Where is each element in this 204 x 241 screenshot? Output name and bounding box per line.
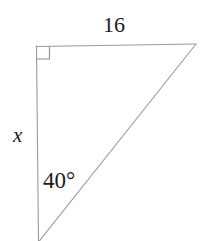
triangle-side-top xyxy=(36,44,196,47)
triangle-drawing xyxy=(0,0,204,241)
side-length-label-left: x xyxy=(13,125,22,146)
angle-measure-label: 40° xyxy=(43,169,75,192)
triangle-side-hypotenuse xyxy=(39,44,197,241)
geometry-figure: 16 x 40° xyxy=(0,0,204,241)
right-angle-marker-icon xyxy=(37,46,50,59)
side-length-label-top: 16 xyxy=(103,14,125,36)
triangle-side-left xyxy=(37,46,39,241)
